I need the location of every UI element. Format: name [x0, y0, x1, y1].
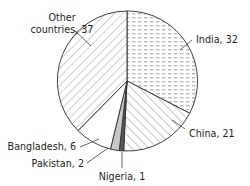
label-other-countries-line1: Other	[48, 12, 75, 23]
label-bangladesh: Bangladesh, 6	[8, 141, 76, 152]
leader-line-pakistan	[87, 148, 108, 163]
pie-chart-figure: Other countries, 37 India, 32 China, 21 …	[0, 0, 250, 186]
label-india: India, 32	[196, 34, 238, 45]
label-pakistan: Pakistan, 2	[32, 158, 84, 169]
label-nigeria: Nigeria, 1	[99, 171, 146, 182]
label-china: China, 21	[189, 128, 235, 139]
label-other-countries-line2: countries, 37	[31, 24, 94, 35]
pie-chart-svg: Other countries, 37 India, 32 China, 21 …	[0, 0, 250, 186]
